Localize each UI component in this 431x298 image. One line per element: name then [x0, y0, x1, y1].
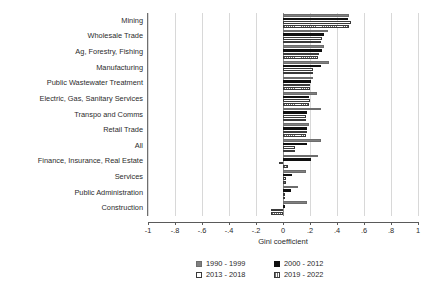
bar: [283, 134, 306, 137]
bar: [283, 174, 292, 177]
x-axis-tick-label: .4: [334, 226, 340, 235]
bar: [279, 162, 283, 165]
bar: [283, 72, 313, 75]
bar: [283, 197, 285, 200]
bar: [283, 205, 285, 208]
bar: [283, 139, 321, 142]
x-axis-tick: [256, 222, 257, 225]
y-axis-label: Construction: [102, 204, 144, 212]
gini-coefficient-bar-chart: MiningWholesale TradeAg, Forestry, Fishi…: [0, 0, 431, 298]
y-axis-label: All: [135, 142, 143, 150]
bar: [283, 155, 318, 158]
gridline--.4: [229, 13, 230, 216]
legend-item-2019-2022[interactable]: 2019 - 2022: [274, 271, 360, 279]
y-axis-label: Electric, Gas, Sanitary Services: [39, 95, 143, 103]
bar: [283, 49, 322, 52]
bar: [283, 119, 306, 122]
bar: [283, 108, 321, 111]
y-axis-label: Retail Trade: [103, 126, 143, 134]
bar: [283, 53, 319, 56]
x-axis-tick-label: .6: [361, 226, 367, 235]
x-axis-tick: [364, 222, 365, 225]
bar: [283, 146, 295, 149]
y-axis-label: Public Wastewater Treatment: [47, 79, 143, 87]
bar: [283, 131, 307, 134]
bar: [283, 158, 311, 161]
x-axis-tick: [175, 222, 176, 225]
bar: [283, 193, 285, 196]
bar: [283, 80, 311, 83]
gridline--1: [148, 13, 149, 216]
bar: [283, 96, 309, 99]
bar: [283, 18, 348, 21]
y-axis-label: Public Administration: [74, 189, 143, 197]
bar: [283, 77, 313, 80]
bar: [283, 111, 307, 114]
bar: [283, 37, 322, 40]
x-axis-tick-label: 1: [416, 226, 420, 235]
bar: [283, 45, 324, 48]
x-axis-tick: [391, 222, 392, 225]
x-axis-tick-label: -.6: [198, 226, 207, 235]
legend-swatch-2000-2012-icon: [274, 261, 280, 267]
bar: [283, 87, 310, 90]
bar: [283, 186, 298, 189]
bar: [283, 201, 307, 204]
bar: [283, 189, 291, 192]
bar: [283, 127, 307, 130]
plot-area: [148, 13, 418, 216]
bar: [283, 103, 309, 106]
bar: [283, 181, 286, 184]
x-axis-title: Gini coefficient: [148, 237, 418, 246]
bar: [283, 41, 321, 44]
y-axis-label: Finance, Insurance, Real Estate: [38, 157, 143, 165]
y-axis-label: Transpo and Comms: [74, 111, 143, 119]
x-axis-tick: [337, 222, 338, 225]
legend-item-2013-2018[interactable]: 2013 - 2018: [196, 271, 274, 279]
bar: [283, 92, 317, 95]
bar: [283, 30, 328, 33]
legend-swatch-2013-2018-icon: [196, 272, 202, 278]
gridline--.2: [256, 13, 257, 216]
bar: [283, 143, 307, 146]
bar: [283, 170, 306, 173]
bar: [283, 84, 310, 87]
bar: [283, 115, 306, 118]
x-axis-tick-label: -.8: [171, 226, 180, 235]
bar: [283, 99, 310, 102]
x-axis-tick-label: .8: [388, 226, 394, 235]
y-axis-spine: [147, 13, 148, 216]
bar: [271, 209, 283, 212]
x-axis-tick: [283, 222, 284, 225]
gridline-1: [418, 13, 419, 216]
y-axis-tick-labels: MiningWholesale TradeAg, Forestry, Fishi…: [0, 13, 143, 216]
bar: [283, 56, 318, 59]
x-axis-tick-label: .2: [307, 226, 313, 235]
legend-item-1990-1999[interactable]: 1990 - 1999: [196, 260, 274, 268]
x-axis-tick: [229, 222, 230, 225]
y-axis-label: Mining: [121, 17, 143, 25]
x-axis-tick-label: 0: [281, 226, 285, 235]
legend-item-2000-2012[interactable]: 2000 - 2012: [274, 260, 360, 268]
x-axis-tick-label: -1: [145, 226, 152, 235]
bar: [283, 123, 309, 126]
bar: [283, 14, 349, 17]
gridline-.2: [310, 13, 311, 216]
y-axis-label: Manufacturing: [96, 64, 143, 72]
bar: [283, 165, 288, 168]
x-axis-tick-label: -.2: [252, 226, 261, 235]
bar: [283, 33, 324, 36]
bar: [283, 150, 295, 153]
bar: [271, 212, 283, 215]
legend-label-1990-1999: 1990 - 1999: [206, 260, 245, 268]
y-axis-label: Ag, Forestry, Fishing: [75, 48, 143, 56]
legend-label-2019-2022: 2019 - 2022: [284, 271, 323, 279]
x-axis-tick: [418, 222, 419, 225]
x-axis-tick: [310, 222, 311, 225]
x-axis-tick-label: -.4: [225, 226, 234, 235]
y-axis-label: Services: [115, 173, 143, 181]
gridline-.4: [337, 13, 338, 216]
y-axis-label: Wholesale Trade: [88, 32, 143, 40]
x-axis-tick: [148, 222, 149, 225]
legend-label-2013-2018: 2013 - 2018: [206, 271, 245, 279]
